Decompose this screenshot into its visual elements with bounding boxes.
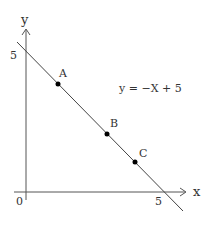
point-b-label: B — [110, 117, 118, 130]
point-c-label: C — [139, 147, 147, 160]
point-a-label: A — [58, 67, 68, 80]
coordinate-diagram: A B C y = −X + 5 y x 5 5 0 — [0, 0, 220, 226]
point-c — [133, 160, 138, 165]
point-b — [105, 132, 110, 137]
point-a — [56, 82, 61, 87]
y-tick-5: 5 — [10, 49, 17, 62]
x-axis-label: x — [193, 184, 201, 199]
equation-label: y = −X + 5 — [118, 82, 182, 95]
origin-label: 0 — [16, 195, 23, 208]
function-line — [17, 42, 183, 211]
y-axis-label: y — [20, 12, 29, 27]
x-tick-5: 5 — [155, 195, 162, 208]
